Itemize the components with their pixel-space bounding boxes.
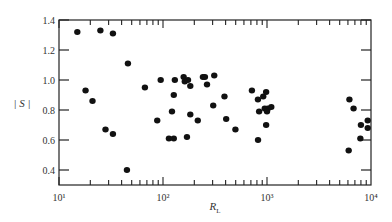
- data-point: [184, 134, 190, 140]
- data-point: [345, 148, 351, 154]
- data-point: [172, 77, 178, 83]
- data-point: [223, 116, 229, 122]
- data-points: [74, 28, 371, 174]
- data-point: [110, 131, 116, 137]
- plot-axes: 0.40.60.81.01.21.410¹10²10³10⁴: [43, 15, 379, 204]
- data-point: [256, 109, 262, 115]
- data-point: [255, 97, 261, 103]
- x-tick-label: 10¹: [53, 192, 66, 203]
- data-point: [171, 92, 177, 98]
- data-point: [210, 103, 216, 109]
- x-axis-label: RL: [208, 200, 220, 215]
- data-point: [110, 31, 116, 37]
- data-point: [157, 77, 163, 83]
- x-tick-label: 10⁴: [364, 192, 378, 203]
- data-point: [187, 112, 193, 118]
- data-point: [211, 73, 217, 79]
- data-point: [268, 104, 274, 110]
- data-point: [202, 74, 208, 80]
- data-point: [263, 122, 269, 128]
- x-tick-label: 10²: [157, 192, 170, 203]
- data-point: [204, 82, 210, 88]
- data-point: [124, 167, 130, 173]
- data-point: [82, 88, 88, 94]
- data-point: [221, 94, 227, 100]
- data-point: [142, 85, 148, 91]
- data-point: [263, 89, 269, 95]
- data-point: [169, 109, 175, 115]
- data-point: [350, 106, 356, 112]
- data-point: [97, 28, 103, 34]
- y-tick-label: 0.8: [43, 105, 56, 116]
- data-point: [185, 77, 191, 83]
- y-tick-label: 1.4: [43, 15, 56, 26]
- data-point: [249, 88, 255, 94]
- scatter-chart: 0.40.60.81.01.21.410¹10²10³10⁴ | S | RL: [0, 0, 392, 222]
- data-point: [264, 109, 270, 115]
- data-point: [365, 118, 371, 124]
- data-point: [255, 137, 261, 143]
- y-tick-label: 1.0: [43, 75, 56, 86]
- data-point: [89, 98, 95, 104]
- data-point: [358, 122, 364, 128]
- data-point: [154, 118, 160, 124]
- x-tick-label: 10³: [261, 192, 274, 203]
- y-axis-label: | S |: [13, 97, 30, 109]
- data-point: [74, 29, 80, 35]
- plot-frame: [59, 20, 371, 185]
- data-point: [171, 136, 177, 142]
- data-point: [346, 97, 352, 103]
- data-point: [102, 127, 108, 133]
- data-point: [365, 125, 371, 131]
- data-point: [195, 118, 201, 124]
- y-tick-label: 0.4: [43, 165, 56, 176]
- y-tick-label: 1.2: [43, 45, 56, 56]
- data-point: [125, 61, 131, 67]
- data-point: [187, 83, 193, 89]
- data-point: [232, 127, 238, 133]
- y-tick-label: 0.6: [43, 135, 56, 146]
- data-point: [357, 136, 363, 142]
